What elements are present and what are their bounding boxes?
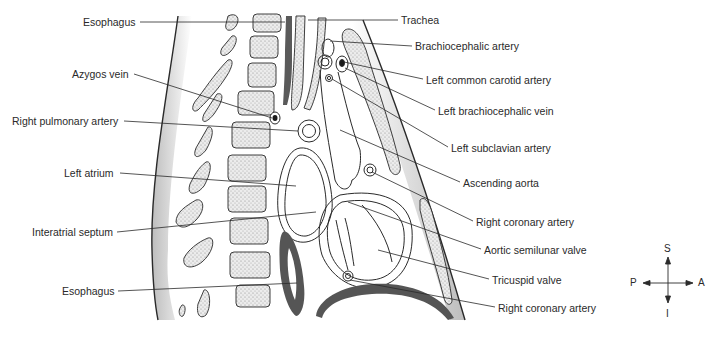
label-right-coronary-artery-lower: Right coronary artery xyxy=(498,302,596,314)
posterior-body-wall xyxy=(152,16,192,320)
vertebrae xyxy=(228,14,281,307)
label-trachea: Trachea xyxy=(401,14,439,26)
label-left-subclavian-artery: Left subclavian artery xyxy=(451,142,551,154)
label-brachiocephalic-artery: Brachiocephalic artery xyxy=(415,40,519,52)
sternum xyxy=(342,29,452,304)
compass-superior-label: S xyxy=(664,244,671,254)
label-left-brachiocephalic-vein: Left brachiocephalic vein xyxy=(438,105,554,117)
left-atrium xyxy=(278,148,333,242)
label-esophagus-lower: Esophagus xyxy=(62,285,115,297)
arrow-down-icon xyxy=(666,296,671,303)
compass-posterior-label: P xyxy=(630,278,637,288)
label-right-pulmonary-artery: Right pulmonary artery xyxy=(12,115,118,127)
orientation-compass xyxy=(643,257,693,303)
label-left-atrium: Left atrium xyxy=(64,167,114,179)
label-ascending-aorta: Ascending aorta xyxy=(463,177,539,189)
label-right-coronary-artery-upper: Right coronary artery xyxy=(476,216,574,228)
label-left-common-carotid-artery: Left common carotid artery xyxy=(426,74,551,86)
right-ventricle xyxy=(319,193,412,288)
label-tricuspid-valve: Tricuspid valve xyxy=(492,274,562,286)
right-coronary-artery-lower xyxy=(343,271,353,281)
label-interatrial-septum: Interatrial septum xyxy=(32,226,113,238)
esophagus xyxy=(283,16,292,105)
arrow-left-icon xyxy=(643,281,650,286)
label-aortic-semilunar-valve: Aortic semilunar valve xyxy=(484,244,587,256)
arrow-right-icon xyxy=(686,281,693,286)
arrow-up-icon xyxy=(666,257,671,264)
label-esophagus-upper: Esophagus xyxy=(83,16,136,28)
compass-inferior-label: I xyxy=(666,309,669,319)
compass-anterior-label: A xyxy=(698,278,705,288)
label-azygos-vein: Azygos vein xyxy=(72,68,129,80)
right-pulmonary-artery xyxy=(298,120,320,142)
ascending-aorta xyxy=(364,164,376,176)
